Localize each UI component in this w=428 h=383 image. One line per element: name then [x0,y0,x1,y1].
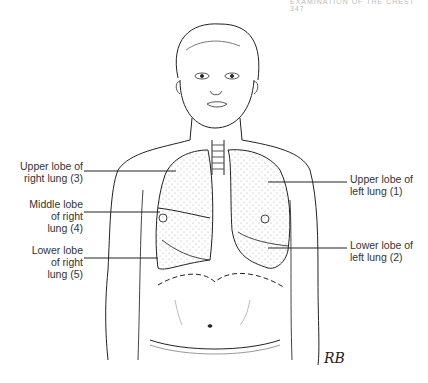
label-line: left lung (1) [350,185,413,197]
label-left-upper-lobe: Upper lobe of left lung (1) [350,173,413,197]
right-lung [156,150,213,269]
left-lung [228,150,290,269]
leader-lines [84,171,347,258]
label-line: Upper lobe of [8,160,83,172]
artist-signature: RB [324,352,345,364]
label-right-middle-lobe: Middle lobe of right lung (4) [8,198,83,234]
label-line: of right [8,256,83,268]
label-line: Lower lobe [8,244,83,256]
label-line: Lower lobe of [350,239,413,251]
label-line: left lung (2) [350,251,413,263]
label-right-upper-lobe: Upper lobe of right lung (3) [8,160,83,184]
label-line: lung (5) [8,268,83,280]
label-line: Upper lobe of [350,173,413,185]
waistband [150,340,280,349]
label-line: right lung (3) [8,172,83,184]
lungs [156,150,290,269]
label-left-lower-lobe: Lower lobe of left lung (2) [350,239,413,263]
label-line: of right [8,210,83,222]
label-line: lung (4) [8,222,83,234]
label-right-lower-lobe: Lower lobe of right lung (5) [8,244,83,280]
hair-outline [176,24,259,80]
label-line: Middle lobe [8,198,83,210]
